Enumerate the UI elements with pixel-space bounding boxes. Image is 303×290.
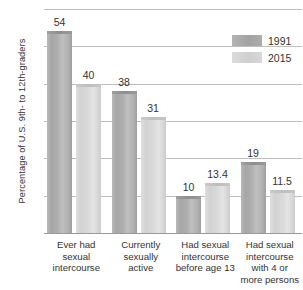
legend-label-2015: 2015 <box>268 52 291 64</box>
legend: 1991 2015 <box>232 33 291 67</box>
value-label-1991-group-3: 10 <box>168 181 209 193</box>
bar-body <box>112 94 137 233</box>
legend-item-2015[interactable]: 2015 <box>232 50 291 65</box>
bar-body <box>76 87 101 233</box>
bar-body <box>141 120 166 233</box>
bar-body <box>47 34 72 233</box>
value-label-1991-group-2: 38 <box>104 76 145 88</box>
bar-2015-group-3[interactable] <box>205 183 230 233</box>
value-label-2015-group-1: 40 <box>68 69 109 81</box>
gridline-0 <box>44 233 302 234</box>
value-label-2015-group-2: 31 <box>133 102 174 114</box>
bar-body <box>270 193 295 233</box>
value-label-2015-group-4: 11.5 <box>262 175 303 187</box>
bar-1991-group-3[interactable] <box>176 196 201 233</box>
legend-swatch-2015 <box>232 52 262 63</box>
bar-2015-group-2[interactable] <box>141 117 166 233</box>
legend-swatch-1991 <box>232 35 262 46</box>
bar-2015-group-1[interactable] <box>76 84 101 233</box>
value-label-1991-group-4: 19 <box>233 147 274 159</box>
category-label-line: intercourse <box>232 251 303 263</box>
legend-label-1991: 1991 <box>268 35 291 47</box>
category-label-line: with 4 or <box>232 262 303 274</box>
y-axis-title: Percentage of U.S. 9th- to 12th-graders <box>17 21 27 221</box>
bar-2015-group-4[interactable] <box>270 190 295 233</box>
bar-chart: Percentage of U.S. 9th- to 12th-graders … <box>0 0 302 290</box>
bar-body <box>176 199 201 233</box>
legend-item-1991[interactable]: 1991 <box>232 33 291 48</box>
category-label-line: more persons <box>232 274 303 286</box>
bar-body <box>205 186 230 233</box>
bar-1991-group-1[interactable] <box>47 31 72 233</box>
x-category-label-4: Had sexualintercoursewith 4 ormore perso… <box>232 239 303 285</box>
category-label-line: Had sexual <box>232 239 303 251</box>
x-axis-category-labels: Ever hadsexualintercourseCurrentlysexual… <box>44 239 302 290</box>
value-label-2015-group-3: 13.4 <box>197 168 238 180</box>
bar-1991-group-4[interactable] <box>241 162 266 233</box>
value-label-1991-group-1: 54 <box>39 16 80 28</box>
